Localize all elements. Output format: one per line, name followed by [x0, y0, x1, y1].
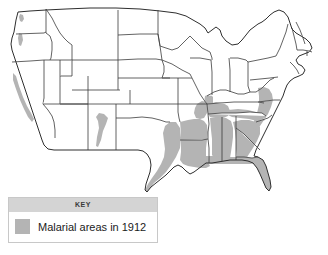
state-border-nh-me	[296, 22, 305, 44]
malaria-area-tennessee-west	[207, 102, 230, 118]
malaria-area-central-valley	[13, 73, 34, 122]
state-border-in-oh	[229, 58, 230, 92]
state-border-ny-ne	[276, 24, 288, 56]
state-border-or-ca	[12, 60, 44, 62]
state-border-or-id	[44, 33, 52, 60]
state-border-nv-ut	[43, 60, 60, 104]
state-border-wi-il	[190, 58, 211, 60]
state-border-ok-tx	[116, 117, 170, 122]
legend-header: KEY	[9, 198, 157, 212]
malaria-area-carolina-virginia-coast	[253, 87, 273, 130]
state-border-michigan-mitten	[210, 52, 212, 60]
state-border-wy-ut	[60, 60, 72, 76]
legend-swatch-malarial-areas	[15, 219, 30, 234]
state-border-pa-ny	[248, 56, 276, 62]
state-border-sd-ne	[118, 59, 162, 60]
legend-entry: Malarial areas in 1912	[9, 212, 157, 242]
state-border-ok-ar	[178, 104, 180, 122]
state-border-lakes-erie	[230, 58, 248, 62]
legend-label-malarial-areas: Malarial areas in 1912	[38, 221, 146, 233]
malaria-area-mississippi-valley	[180, 119, 210, 168]
malaria-area-pacific-northwest	[19, 14, 24, 22]
state-border-oh-pa	[248, 62, 250, 92]
malaria-area-rio-grande-nm	[96, 113, 108, 147]
state-border-ky-north	[207, 90, 256, 96]
malaria-area-east-texas	[145, 122, 181, 192]
malaria-area-willamette	[18, 33, 23, 46]
state-border-wi-mi	[190, 36, 210, 52]
state-border-il-in	[211, 60, 212, 95]
malaria-area-alabama-mississippi	[210, 117, 233, 160]
legend-box: KEY Malarial areas in 1912	[8, 197, 158, 243]
state-border-ca-nv	[43, 60, 44, 104]
state-border-ca-az	[43, 104, 55, 138]
malaria-map-figure: KEY Malarial areas in 1912	[0, 0, 328, 255]
state-border-wa-or	[16, 32, 46, 34]
state-border-ne-ia	[162, 60, 164, 78]
state-border-nd-sd	[118, 34, 158, 35]
state-border-ia-il	[162, 60, 192, 78]
state-border-mn-wi	[160, 36, 190, 50]
state-border-sd-mn-ia	[158, 34, 162, 60]
